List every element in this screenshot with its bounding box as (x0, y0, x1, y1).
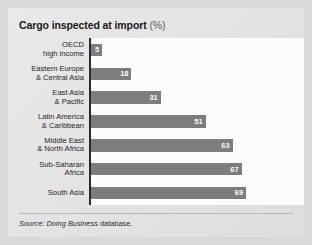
bar-track: 31 (91, 86, 161, 110)
bar-value-label: 63 (221, 142, 232, 149)
bar: 5 (91, 44, 102, 57)
bar-value-label: 31 (149, 94, 160, 101)
category-label: Middle East & North Africa (8, 137, 84, 154)
category-label: OECD high income (8, 41, 84, 58)
bar-row: Latin America & Caribbean51 (8, 110, 304, 134)
chart-title-unit: (%) (149, 19, 165, 31)
bar-track: 5 (91, 38, 102, 62)
category-label: Latin America & Caribbean (8, 113, 84, 130)
bar-row: OECD high income5 (8, 38, 304, 62)
source-prefix: Source: Doing Business (19, 219, 98, 228)
source-separator (19, 213, 293, 214)
bar-value-label: 69 (235, 189, 246, 196)
bar: 69 (91, 187, 246, 200)
category-label: Eastern Europe & Central Asia (8, 65, 84, 82)
chart-title-text: Cargo inspected at import (19, 19, 147, 31)
bar-value-label: 51 (194, 118, 205, 125)
category-label: East Asia & Pacific (8, 89, 84, 106)
bar: 51 (91, 115, 206, 128)
chart-title: Cargo inspected at import (%) (19, 19, 165, 31)
bar-track: 51 (91, 110, 206, 134)
bar-value-label: 18 (120, 70, 131, 77)
bar-track: 69 (91, 181, 246, 205)
figure-panel: Cargo inspected at import (%) OECD high … (8, 8, 304, 237)
bar-rows: OECD high income5Eastern Europe & Centra… (8, 38, 304, 205)
source-note: Source: Doing Business database. (19, 219, 132, 228)
bar: 67 (91, 163, 242, 176)
bar: 18 (91, 68, 131, 81)
bar-value-label: 67 (230, 166, 241, 173)
bar-row: East Asia & Pacific31 (8, 86, 304, 110)
bar-row: Sub-Saharan Africa67 (8, 157, 304, 181)
bar-row: Middle East & North Africa63 (8, 133, 304, 157)
category-label: Sub-Saharan Africa (8, 161, 84, 178)
bar-value-label: 5 (95, 46, 102, 53)
bar: 63 (91, 139, 233, 152)
bar-row: Eastern Europe & Central Asia18 (8, 62, 304, 86)
source-suffix: database. (98, 219, 133, 228)
bar-track: 63 (91, 133, 233, 157)
bar-track: 18 (91, 62, 131, 86)
bar-track: 67 (91, 157, 242, 181)
plot-area: OECD high income5Eastern Europe & Centra… (8, 38, 304, 205)
bar-row: South Asia69 (8, 181, 304, 205)
bar: 31 (91, 91, 161, 104)
category-label: South Asia (8, 189, 84, 198)
